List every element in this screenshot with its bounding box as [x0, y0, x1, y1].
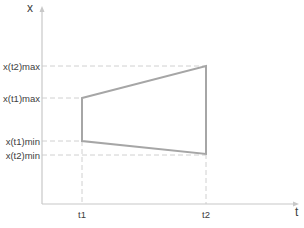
label-x-t2-max: x(t2)max: [3, 61, 40, 72]
label-x-t1-min: x(t1)min: [6, 136, 40, 147]
tick-t1: t1: [78, 209, 86, 220]
y-axis-label: x: [27, 1, 33, 15]
label-x-t2-min: x(t2)min: [6, 150, 40, 161]
label-x-t1-max: x(t1)max: [3, 93, 40, 104]
y-axis-arrow-icon: [40, 6, 45, 12]
axes: [42, 9, 296, 204]
state-bounds-trapezoid: [82, 66, 206, 154]
trapezoid-diagram: x t x(t2)max x(t1)max x(t1)min x(t2)min …: [0, 0, 304, 228]
tick-t2: t2: [202, 209, 210, 220]
x-axis-label: t: [295, 205, 299, 219]
